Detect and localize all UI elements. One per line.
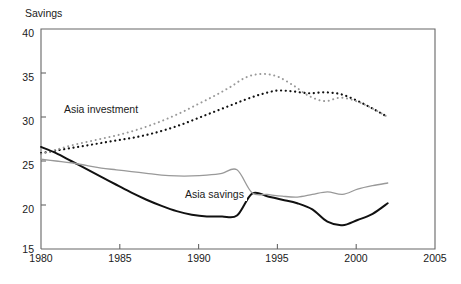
series-layer xyxy=(41,74,388,225)
annotation-asia-savings: Asia savings xyxy=(182,187,247,201)
annotation-asia-investment: Asia investment xyxy=(61,102,141,116)
savings-chart: Savings 40 35 30 25 20 15 1980 1985 1990… xyxy=(0,0,461,284)
tick-marks xyxy=(41,73,356,249)
series-path-0 xyxy=(41,90,388,153)
plot-area xyxy=(0,0,461,284)
